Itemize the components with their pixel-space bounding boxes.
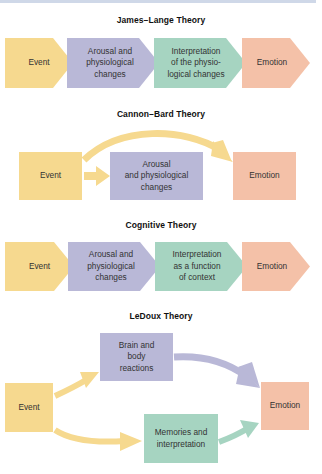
line: logical changes bbox=[167, 69, 224, 81]
line: Interpretation bbox=[167, 46, 224, 58]
arrow-event-to-arousal bbox=[84, 166, 110, 186]
line: as a function bbox=[173, 261, 222, 273]
cognitive-title: Cognitive Theory bbox=[0, 220, 322, 230]
cog-arousal-step: Arousal and physiological changes bbox=[68, 242, 160, 291]
jl-event-step: Event bbox=[5, 38, 73, 88]
arrow-brain-to-emotion bbox=[174, 357, 260, 388]
arrow-event-to-memories bbox=[55, 430, 142, 451]
line: and physiological bbox=[125, 170, 189, 182]
jl-interpretation-step: Interpretation of the physio- logical ch… bbox=[154, 38, 246, 88]
line: physiological bbox=[87, 261, 135, 273]
jl-emotion-label: Emotion bbox=[257, 57, 287, 69]
cb-emotion-box: Emotion bbox=[233, 152, 296, 200]
cog-interpretation-step: Interpretation as a function of context bbox=[155, 242, 247, 291]
ld-emotion-label: Emotion bbox=[270, 400, 300, 412]
line: interpretation bbox=[155, 439, 208, 451]
ld-memories-box: Memories and interpretation bbox=[144, 414, 218, 463]
top-border-bar bbox=[0, 0, 316, 3]
line: of context bbox=[173, 272, 222, 284]
ld-event-label: Event bbox=[18, 402, 39, 414]
line: Arousal bbox=[125, 159, 189, 171]
cog-emotion-label: Emotion bbox=[257, 261, 287, 273]
cog-event-label: Event bbox=[29, 261, 50, 273]
cb-emotion-label: Emotion bbox=[249, 170, 279, 182]
line: reactions bbox=[119, 363, 155, 375]
ld-event-box: Event bbox=[5, 383, 53, 432]
cog-event-step: Event bbox=[5, 242, 74, 291]
line: changes bbox=[86, 69, 134, 81]
line: changes bbox=[87, 272, 135, 284]
line: of the physio- bbox=[167, 57, 224, 69]
line: physiological bbox=[86, 57, 134, 69]
cog-emotion-step: Emotion bbox=[242, 242, 310, 291]
arrow-memories-to-emotion bbox=[219, 420, 259, 442]
jl-emotion-step: Emotion bbox=[242, 38, 310, 88]
line: Interpretation bbox=[173, 249, 222, 261]
ld-brain-box: Brain and body reactions bbox=[100, 333, 173, 381]
james-lange-title: James–Lange Theory bbox=[0, 15, 322, 25]
cb-event-label: Event bbox=[40, 170, 61, 182]
line: changes bbox=[125, 182, 189, 194]
line: Arousal and bbox=[86, 46, 134, 58]
cb-arousal-box: Arousal and physiological changes bbox=[110, 152, 203, 200]
ld-emotion-box: Emotion bbox=[261, 382, 309, 430]
line: Brain and bbox=[119, 340, 155, 352]
ledoux-title: LeDoux Theory bbox=[0, 311, 322, 321]
cb-event-box: Event bbox=[19, 152, 82, 200]
jl-event-label: Event bbox=[28, 57, 49, 69]
cannon-bard-title: Cannon–Bard Theory bbox=[0, 109, 322, 119]
line: Arousal and bbox=[87, 249, 135, 261]
arrow-event-to-brain bbox=[55, 372, 99, 396]
line: body bbox=[119, 351, 155, 363]
jl-arousal-step: Arousal and physiological changes bbox=[67, 38, 159, 88]
line: Memories and bbox=[155, 427, 208, 439]
